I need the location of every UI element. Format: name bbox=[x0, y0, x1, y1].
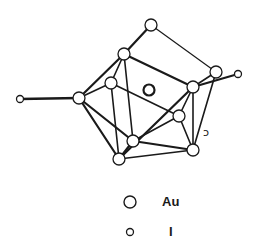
cluster-diagram: ↄ bbox=[0, 0, 256, 251]
atom-au2 bbox=[118, 48, 130, 60]
bond-Au2-Au6 bbox=[124, 54, 193, 87]
atom-au8 bbox=[127, 135, 139, 147]
atom-auc bbox=[144, 85, 155, 96]
bond-Au3-Au8 bbox=[79, 98, 133, 141]
legend-i-label: I bbox=[169, 225, 173, 238]
atom-i2 bbox=[235, 71, 242, 78]
bond-Au2-Au3 bbox=[79, 54, 124, 98]
atom-au1 bbox=[145, 19, 157, 31]
bond-Au2-Au8 bbox=[124, 54, 133, 141]
legend-au-icon bbox=[124, 196, 136, 208]
atom-au9 bbox=[113, 153, 125, 165]
bond-Au9-Au10 bbox=[119, 150, 193, 159]
bond-Au3-I1 bbox=[20, 98, 79, 99]
legend-au-label: Au bbox=[162, 195, 179, 208]
annotation-mark: ↄ bbox=[203, 126, 209, 139]
atom-i1 bbox=[17, 96, 24, 103]
legend-i-icon bbox=[127, 229, 134, 236]
bond-Au7-Au8 bbox=[133, 116, 179, 141]
atom-au5 bbox=[210, 66, 222, 78]
legend-symbols bbox=[124, 196, 136, 236]
atom-au10 bbox=[187, 144, 199, 156]
bond-Au8-Au10 bbox=[133, 141, 193, 150]
atom-au7 bbox=[173, 110, 185, 122]
atom-au6 bbox=[187, 81, 199, 93]
atom-au3 bbox=[73, 92, 85, 104]
bond-Au1-Au5 bbox=[151, 25, 216, 72]
atom-au4 bbox=[105, 77, 117, 89]
